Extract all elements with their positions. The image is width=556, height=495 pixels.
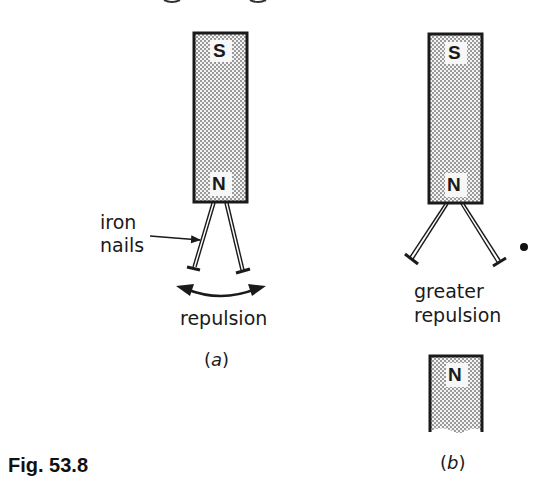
panel-a — [150, 33, 266, 296]
iron-nail-right-a — [225, 203, 250, 273]
repulsion-label-a: repulsion — [180, 307, 267, 329]
magnet-a-pole-s: S — [213, 40, 226, 62]
magnet-b-upper-pole-s: S — [448, 42, 461, 64]
diagram-canvas — [0, 0, 556, 495]
dot-marker-icon — [520, 243, 528, 251]
repulsion-label-b: repulsion — [414, 304, 501, 326]
iron-nail-left-b — [405, 204, 448, 264]
caption-b: (b) — [440, 452, 466, 474]
magnet-a-pole-n: N — [212, 173, 226, 195]
iron-nail-right-b — [461, 204, 506, 266]
iron-nail-left-a — [187, 203, 215, 270]
double-headed-curved-arrow-icon — [176, 284, 266, 296]
panel-b — [405, 34, 528, 433]
nails-label: nails — [100, 234, 144, 256]
iron-label: iron — [100, 211, 136, 233]
magnet-b-upper-pole-n: N — [447, 174, 461, 196]
arrow-pointer-icon — [150, 236, 200, 240]
clipped-heading-fragment — [164, 0, 266, 2]
figure-label: Fig. 53.8 — [8, 454, 88, 477]
magnet-b-lower-pole-n: N — [448, 364, 462, 386]
greater-label: greater — [414, 280, 484, 302]
caption-a: (a) — [204, 349, 229, 371]
